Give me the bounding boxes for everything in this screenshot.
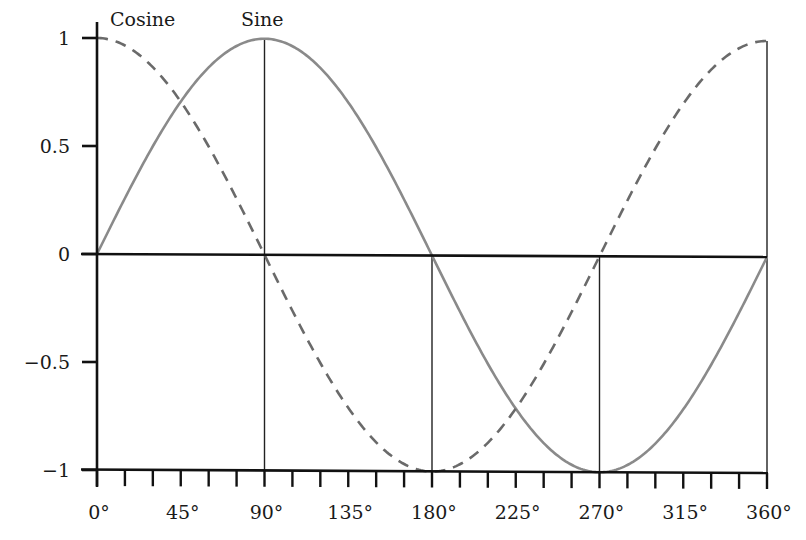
x-tick-label: 360°: [746, 501, 792, 523]
x-tick-label: 225°: [495, 501, 541, 523]
cosine-label: Cosine: [110, 8, 175, 30]
x-tick-label: 270°: [579, 501, 625, 523]
y-tick-label: 1: [58, 27, 70, 49]
axes: [81, 22, 768, 489]
x-tick-label: 315°: [662, 501, 708, 523]
sine-cosine-chart: 0°45°90°135°180°225°270°315°360°10.50−0.…: [0, 0, 806, 540]
x-tick-label: 0°: [88, 501, 110, 523]
x-axis-line: [81, 470, 768, 474]
zero-line: [81, 254, 767, 257]
y-tick-label: −1: [42, 459, 70, 481]
x-tick-label: 90°: [250, 501, 284, 523]
x-tick-label: 180°: [411, 501, 457, 523]
x-tick-label: 45°: [166, 501, 200, 523]
x-tick-label: 135°: [327, 501, 373, 523]
tick-labels: 0°45°90°135°180°225°270°315°360°10.50−0.…: [24, 27, 792, 523]
y-tick-label: −0.5: [24, 351, 70, 373]
y-tick-label: 0: [58, 243, 70, 265]
sine-label: Sine: [241, 8, 284, 30]
y-tick-label: 0.5: [40, 135, 70, 157]
